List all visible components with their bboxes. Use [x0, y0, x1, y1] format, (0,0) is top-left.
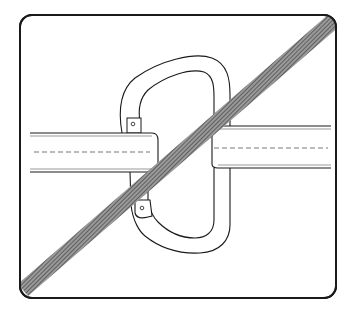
right-webbing-strap [212, 126, 331, 168]
left-webbing-strap [30, 133, 158, 172]
illustration-canvas: Carabiner clipped across strap gap - pro… [0, 0, 352, 309]
